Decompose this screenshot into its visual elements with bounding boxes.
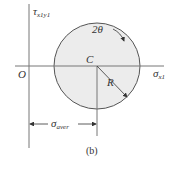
center-label: C	[86, 53, 94, 65]
figure-caption: (b)	[86, 145, 98, 157]
x-axis-label: σx1	[153, 67, 165, 81]
dimension-label: σaver	[51, 117, 69, 131]
y-axis-label: τx1y1	[33, 5, 50, 19]
radius-label: R	[106, 76, 114, 88]
origin-label: O	[18, 68, 26, 80]
mohr-circle-diagram: τx1y1 σx1 O C R 2θ σaver (b)	[0, 0, 179, 171]
angle-label: 2θ	[92, 23, 104, 35]
